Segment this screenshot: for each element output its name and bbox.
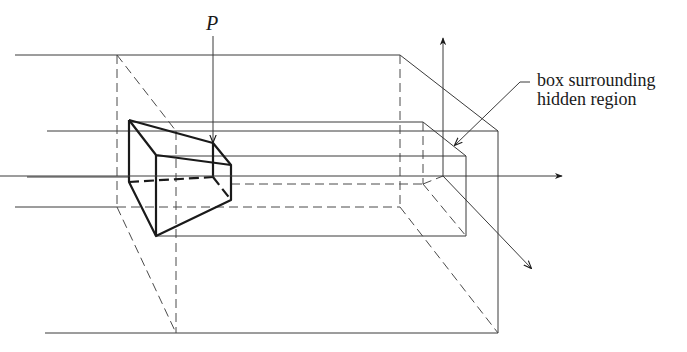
diagram-canvas (0, 0, 687, 352)
axes (0, 38, 562, 268)
point-label-p: P (206, 12, 218, 35)
frustum (129, 120, 231, 236)
annotation-line-1: box surrounding (537, 71, 656, 90)
annotation-label: box surrounding hidden region (537, 71, 656, 109)
annotation-leader (455, 82, 530, 145)
annotation-line-2: hidden region (537, 90, 656, 109)
axis-diagonal (443, 176, 531, 268)
outer-box (15, 55, 498, 333)
